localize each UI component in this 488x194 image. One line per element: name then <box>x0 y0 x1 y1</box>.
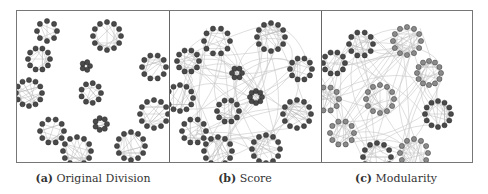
graph-node <box>448 111 453 116</box>
graph-node <box>349 48 354 53</box>
graph-node <box>61 128 66 133</box>
graph-node <box>368 48 373 53</box>
graph-node <box>26 103 31 108</box>
graph-node <box>263 160 268 162</box>
graph-node <box>328 108 333 113</box>
graph-node <box>141 136 146 141</box>
graph-node <box>417 31 422 36</box>
graph-node <box>182 121 187 126</box>
graph-node <box>414 70 419 75</box>
graph-node <box>80 66 85 71</box>
graph-node <box>17 84 20 89</box>
panel-original-division <box>17 11 169 162</box>
graph-node <box>302 56 307 61</box>
graph-node <box>59 121 64 126</box>
graph-node <box>336 142 341 147</box>
graph-node <box>210 26 215 31</box>
graph-node <box>336 119 341 124</box>
graph-node <box>363 96 368 101</box>
community-cluster <box>17 77 45 108</box>
community-cluster <box>249 132 282 162</box>
graph-node <box>261 47 266 52</box>
graph-node <box>45 63 50 68</box>
caption-label: (c) <box>355 172 372 185</box>
graph-node <box>346 41 351 46</box>
graph-node <box>40 67 45 72</box>
graph-node <box>322 108 326 113</box>
graph-node <box>174 58 179 63</box>
graph-node <box>54 28 59 33</box>
community-cluster <box>327 119 356 147</box>
graph-node <box>28 63 33 68</box>
graph-node <box>142 57 147 62</box>
graph-node <box>420 81 425 86</box>
graph-node <box>399 157 404 162</box>
community-cluster <box>37 117 66 145</box>
graph-node <box>377 110 382 115</box>
graph-node <box>256 159 261 162</box>
graph-node <box>218 26 223 31</box>
graph-node <box>330 137 335 142</box>
graph-node <box>39 90 44 95</box>
graph-node <box>416 64 421 69</box>
graph-node <box>97 21 102 26</box>
graph-node <box>47 56 52 61</box>
graph-node <box>97 46 102 51</box>
graph-node <box>426 82 431 87</box>
graph-node <box>370 41 375 46</box>
graph-node <box>294 97 299 102</box>
graph-node <box>67 136 72 141</box>
graph-node <box>218 51 223 56</box>
graph-node <box>67 161 72 162</box>
graph-node <box>217 115 222 120</box>
graph-node <box>85 60 90 65</box>
community-cluster <box>322 50 348 76</box>
graph-node <box>142 143 147 148</box>
graph-node <box>139 64 144 69</box>
graph-node <box>343 119 348 124</box>
graph-node <box>26 77 31 82</box>
graph-node <box>261 22 266 27</box>
graph-node <box>177 52 182 57</box>
graph-node <box>281 27 286 32</box>
graph-node <box>158 99 163 104</box>
graph-node <box>40 135 45 140</box>
graph-node <box>322 60 326 65</box>
graph-node <box>97 116 102 121</box>
graph-node <box>104 19 109 24</box>
graph-node <box>189 69 194 74</box>
graph-node <box>355 30 360 35</box>
graph-node <box>447 105 452 110</box>
graph-node <box>93 124 98 129</box>
graph-node <box>45 50 50 55</box>
graph-node <box>322 85 326 90</box>
graph-node <box>256 27 261 32</box>
graph-node <box>351 130 356 135</box>
graph-node <box>81 161 86 162</box>
graph-node <box>323 54 328 59</box>
graph-node <box>307 118 312 123</box>
graph-node <box>182 48 187 53</box>
graph-node <box>442 123 447 128</box>
graph-node <box>62 155 67 160</box>
graph-node <box>397 51 402 56</box>
graph-node <box>33 102 38 107</box>
graph-node <box>387 147 392 152</box>
graph-node <box>190 95 195 100</box>
graph-node <box>17 97 20 102</box>
graph-node <box>204 46 209 51</box>
graph-node <box>418 38 423 43</box>
graph-node <box>432 81 437 86</box>
graph-node <box>437 64 442 69</box>
graph-node <box>388 154 393 159</box>
graph-node <box>349 123 354 128</box>
graph-node <box>229 148 234 153</box>
caption-text: Original Division <box>57 172 151 185</box>
graph-node <box>177 108 182 113</box>
graph-node <box>287 124 292 129</box>
graph-node <box>148 53 153 58</box>
graph-node <box>256 134 261 139</box>
graph-node <box>203 128 208 133</box>
graph-node <box>163 64 168 69</box>
graph-node <box>424 118 429 123</box>
